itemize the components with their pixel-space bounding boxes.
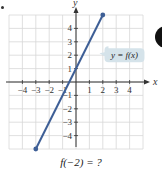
curve-label-callout: y = f(x) — [99, 46, 144, 62]
axes: xy — [6, 0, 158, 147]
svg-text:2: 2 — [68, 50, 73, 60]
svg-text:2: 2 — [101, 85, 106, 95]
svg-text:−4: −4 — [18, 85, 28, 95]
svg-text:1: 1 — [68, 64, 73, 74]
svg-text:−3: −3 — [62, 117, 72, 127]
svg-text:−2: −2 — [62, 104, 72, 114]
svg-text:−4: −4 — [62, 131, 72, 141]
function-graph: xy −4−3−2−11234−4−3−2−11234 y = f(x) — [0, 0, 162, 174]
svg-text:4: 4 — [68, 23, 73, 33]
svg-text:x: x — [152, 76, 158, 87]
svg-text:3: 3 — [114, 85, 119, 95]
svg-text:1: 1 — [87, 85, 92, 95]
svg-text:−2: −2 — [44, 85, 54, 95]
svg-text:y: y — [72, 0, 78, 8]
svg-text:3: 3 — [68, 37, 73, 47]
svg-text:−3: −3 — [31, 85, 41, 95]
svg-text:y = f(x): y = f(x) — [110, 50, 138, 60]
svg-text:4: 4 — [127, 85, 132, 95]
question-text: f(−2) = ? — [0, 156, 162, 168]
